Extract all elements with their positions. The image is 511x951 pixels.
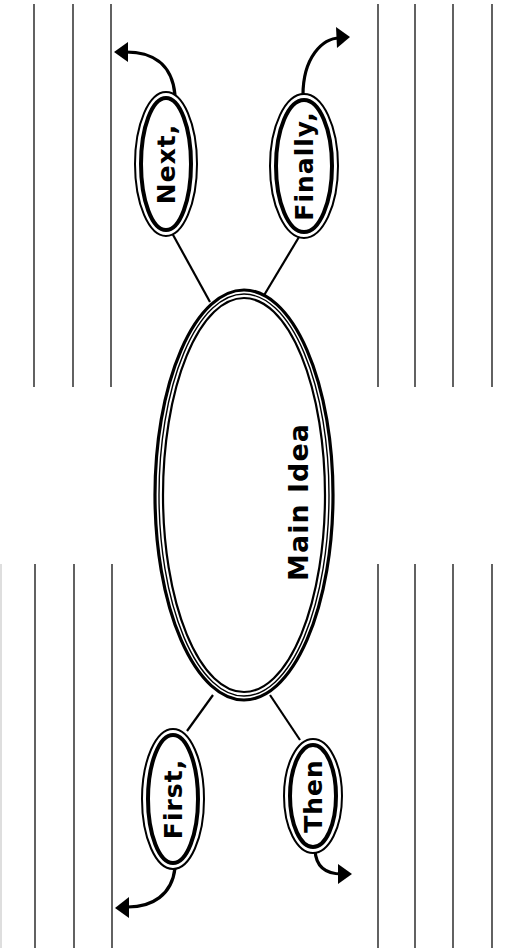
bubble-finally[interactable]: Finally, (270, 94, 338, 238)
bubble-first[interactable]: First, (142, 729, 204, 869)
bubble-first-label: First, (159, 759, 188, 839)
bubble-next-label: Next, (152, 124, 181, 204)
bubble-next[interactable]: Next, (135, 92, 197, 236)
connector-next (172, 233, 210, 302)
writing-lines-right-bottom (378, 564, 492, 948)
bubble-then-label: Then (299, 759, 328, 833)
writing-lines-right-top (378, 4, 492, 387)
bubble-then[interactable]: Then (284, 739, 342, 853)
writing-lines-left-bottom (1, 564, 112, 948)
arrow-icon-first (115, 868, 175, 918)
connector-first (187, 695, 213, 731)
bubble-finally-label: Finally, (290, 111, 319, 220)
writing-lines-left-top (34, 4, 111, 387)
graphic-organizer: Main Idea Next, Finally, First, Then (0, 0, 511, 951)
connector-finally (263, 237, 299, 297)
arrow-icon-next (114, 42, 175, 95)
arrow-icon-then (315, 850, 352, 884)
connector-then (270, 695, 300, 740)
arrow-icon-finally (303, 27, 350, 95)
main-idea-label: Main Idea (283, 423, 314, 581)
main-idea-oval[interactable]: Main Idea (155, 290, 333, 700)
